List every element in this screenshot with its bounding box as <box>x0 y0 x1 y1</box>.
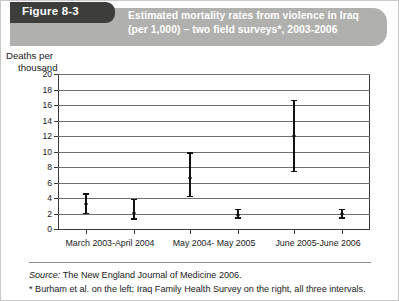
x-group-label: March 2003-April 2004 <box>66 238 155 248</box>
y-tick-mark <box>54 167 58 168</box>
gridline <box>58 214 370 215</box>
error-bar-point-marker <box>188 177 192 179</box>
gridline <box>58 183 370 184</box>
error-bar <box>187 152 193 197</box>
error-bar-cap-lower <box>291 171 297 173</box>
error-bar-cap-upper <box>235 209 241 211</box>
gridline <box>58 90 370 91</box>
x-axis-line <box>58 229 370 230</box>
x-tick-mark <box>294 230 295 234</box>
figure-number-label: Figure 8-3 <box>22 5 79 17</box>
figure-8-3: Figure 8-3 Estimated mortality rates fro… <box>0 0 399 301</box>
error-bar-point-marker <box>236 214 240 216</box>
gridline <box>58 198 370 199</box>
error-bar <box>291 100 297 173</box>
y-tick-mark <box>54 136 58 137</box>
x-group-label: May 2004- May 2005 <box>173 238 256 248</box>
plot-area: 02468101214161820 March 2003-April 2004M… <box>58 74 370 229</box>
figure-title-line-2: (per 1,000) – two field surveys*, 2003-2… <box>128 23 378 37</box>
footnote-line: * Burham et al. on the left; Iraq Family… <box>29 284 366 294</box>
error-bar-stem <box>189 152 190 197</box>
error-bar-cap-upper <box>187 152 193 154</box>
gridline <box>58 105 370 106</box>
error-bar-point-marker <box>132 212 136 214</box>
y-tick-label: 2 <box>24 209 52 219</box>
error-bar <box>131 199 137 220</box>
y-tick-label: 0 <box>24 224 52 234</box>
gridline <box>58 152 370 153</box>
error-bar <box>235 209 241 219</box>
error-bar-cap-lower <box>235 217 241 219</box>
y-axis-title-line-1: Deaths per <box>6 50 57 62</box>
error-bar-cap-lower <box>187 196 193 198</box>
y-tick-mark <box>54 90 58 91</box>
error-bar <box>339 209 345 219</box>
y-tick-label: 20 <box>24 69 52 79</box>
error-bar-cap-lower <box>339 217 345 219</box>
x-tick-mark <box>238 230 239 234</box>
y-tick-label: 12 <box>24 131 52 141</box>
figure-title: Estimated mortality rates from violence … <box>128 9 378 36</box>
y-tick-mark <box>54 74 58 75</box>
x-group-label: June 2005-June 2006 <box>275 238 360 248</box>
error-bar-cap-lower <box>83 213 89 215</box>
y-tick-mark <box>54 105 58 106</box>
y-tick-mark <box>54 121 58 122</box>
x-tick-mark <box>134 230 135 234</box>
source-line: Source: The New England Journal of Medic… <box>29 270 242 280</box>
gridline <box>58 167 370 168</box>
y-tick-label: 14 <box>24 116 52 126</box>
figure-title-line-1: Estimated mortality rates from violence … <box>128 9 378 23</box>
source-text: The New England Journal of Medicine 2006… <box>60 270 241 280</box>
x-tick-mark <box>190 230 191 234</box>
y-tick-mark <box>54 152 58 153</box>
y-tick-label: 18 <box>24 85 52 95</box>
error-bar-cap-upper <box>291 100 297 102</box>
error-bar <box>83 193 89 214</box>
error-bar-point-marker <box>292 135 296 137</box>
error-bar-cap-upper <box>339 209 345 211</box>
error-bar-cap-upper <box>83 193 89 195</box>
gridline <box>58 136 370 137</box>
gridline <box>58 121 370 122</box>
y-tick-label: 6 <box>24 178 52 188</box>
x-tick-mark <box>86 230 87 234</box>
y-tick-label: 10 <box>24 147 52 157</box>
error-bar-cap-upper <box>131 199 137 201</box>
y-tick-label: 4 <box>24 193 52 203</box>
gridline <box>58 74 370 75</box>
y-tick-mark <box>54 183 58 184</box>
error-bar-cap-lower <box>131 218 137 220</box>
source-label: Source: <box>29 270 60 280</box>
y-tick-mark <box>54 198 58 199</box>
y-tick-label: 8 <box>24 162 52 172</box>
y-tick-mark <box>54 229 58 230</box>
footer-divider <box>29 262 371 263</box>
error-bar-stem <box>133 199 134 220</box>
y-tick-mark <box>54 214 58 215</box>
y-tick-label: 16 <box>24 100 52 110</box>
x-tick-mark <box>342 230 343 234</box>
